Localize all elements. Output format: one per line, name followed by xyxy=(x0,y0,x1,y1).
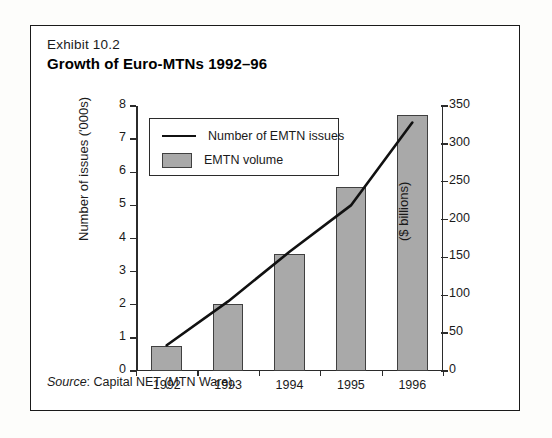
exhibit-frame: Exhibit 10.2 Growth of Euro-MTNs 1992–96… xyxy=(30,25,520,411)
y-axis-left-title: Number of issues ('000s) xyxy=(76,97,91,241)
y-tick-label-left: 5 xyxy=(86,196,126,210)
x-tick xyxy=(443,370,444,376)
y-tick-label-left: 7 xyxy=(86,130,126,144)
legend-label-bar: EMTN volume xyxy=(204,153,283,167)
y-tick-label-right: 200 xyxy=(449,211,493,225)
legend-label-line: Number of EMTN issues xyxy=(208,129,344,143)
y-tick-label-left: 6 xyxy=(86,163,126,177)
y-tick-label-right: 350 xyxy=(449,97,493,111)
page-title: Growth of Euro-MTNs 1992–96 xyxy=(47,55,267,72)
x-tick-label: 1994 xyxy=(255,378,325,392)
source-note: Source: Capital NET (MTN Ware). xyxy=(47,375,236,389)
y-tick-label-right: 0 xyxy=(449,362,493,376)
y-tick-label-left: 1 xyxy=(86,329,126,343)
legend-item-line: Number of EMTN issues xyxy=(162,127,344,145)
source-keyword: Source xyxy=(47,375,87,389)
y-axis-right-title: ($ billions) xyxy=(396,182,411,241)
y-tick-label-right: 100 xyxy=(449,286,493,300)
y-tick-label-left: 0 xyxy=(86,362,126,376)
y-tick-label-left: 2 xyxy=(86,296,126,310)
chart-legend: Number of EMTN issues EMTN volume xyxy=(149,118,339,176)
line-swatch-icon xyxy=(162,135,196,137)
source-text: : Capital NET (MTN Ware). xyxy=(87,375,236,389)
y-tick-label-left: 3 xyxy=(86,263,126,277)
legend-item-bar: EMTN volume xyxy=(162,151,283,169)
y-tick-label-right: 300 xyxy=(449,135,493,149)
x-tick-label: 1995 xyxy=(316,378,386,392)
x-tick-label: 1996 xyxy=(377,378,447,392)
exhibit-label: Exhibit 10.2 xyxy=(47,37,120,52)
y-tick-label-right: 250 xyxy=(449,173,493,187)
y-tick-label-left: 4 xyxy=(86,230,126,244)
y-tick-label-right: 150 xyxy=(449,248,493,262)
y-tick-label-left: 8 xyxy=(86,97,126,111)
bar-swatch-icon xyxy=(162,153,192,168)
y-tick-label-right: 50 xyxy=(449,324,493,338)
